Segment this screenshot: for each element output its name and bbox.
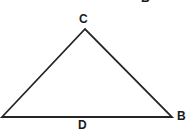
geometry-figure: C D B B bbox=[0, 0, 187, 134]
clipped-label-top: B bbox=[141, 0, 150, 4]
triangle-diagram bbox=[0, 0, 187, 134]
vertex-label-b: B bbox=[177, 110, 186, 122]
base-label-d: D bbox=[78, 119, 87, 131]
vertex-label-c: C bbox=[79, 13, 88, 25]
triangle-outline bbox=[2, 29, 172, 117]
